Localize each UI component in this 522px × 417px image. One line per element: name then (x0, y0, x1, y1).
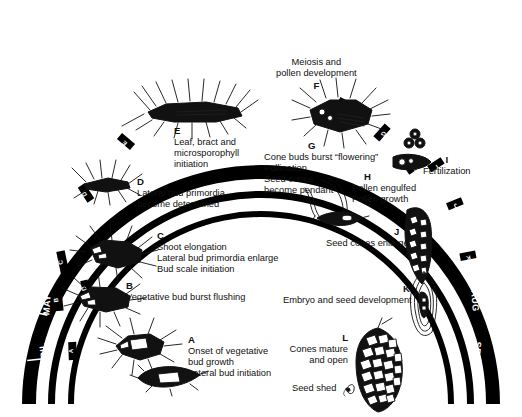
month-label-april-left: APRIL (37, 342, 50, 372)
stage-letter-K: K (403, 283, 412, 295)
annotation-seed-shed: Seed shed (292, 383, 336, 394)
stage-line-C-2: Bud scale initiation (157, 264, 278, 275)
stage-line-L-1: and open (266, 355, 348, 366)
stage-line-E-1: microsporophyll (174, 148, 239, 159)
month-label-may-left: MAY (41, 294, 52, 315)
stage-label-C: C Shoot elongation Lateral bud primordia… (157, 230, 278, 275)
stage-letter-I: I (423, 154, 471, 166)
month-label-nov-feb: NOV • FEB (236, 91, 286, 101)
stage-line-D-0: Lateral bud primordia (137, 188, 225, 199)
stage-line-E-0: Leaf, bract and (174, 137, 239, 148)
stage-label-D: D Lateral bud primordia become determine… (137, 176, 225, 210)
stage-line-G-0: Cone buds burst “flowering” (264, 152, 378, 163)
stage-line-I-0: Fertilization (423, 166, 471, 177)
month-label-aug-left: AUG (100, 153, 121, 176)
stage-letter-H: H (364, 171, 416, 183)
stage-letter-G: G (308, 140, 378, 152)
ring-tick-A: A (67, 348, 74, 353)
month-label-sept-left: SEPT (136, 120, 162, 144)
annotation-seed-shed-text: Seed shed (292, 383, 336, 394)
stage-label-A: A Onset of vegetative bud growth Lateral… (188, 334, 271, 379)
stage-line-C-1: Lateral bud primordia enlarge (157, 253, 278, 264)
stage-line-L-0: Cones mature (266, 344, 348, 355)
cycle-diagram: NOV • FEB OCT SEPT AUG JULY JUNE MAY APR… (0, 0, 522, 417)
stage-label-B: B Vegetative bud burst flushing (126, 280, 245, 303)
stage-line-F-1: pollen development (276, 68, 357, 79)
stage-label-F: Meiosis and pollen development F (276, 57, 357, 91)
stage-label-K: K Embryo and seed development (283, 283, 412, 306)
month-label-aug-right: AUG (469, 290, 480, 312)
stage-letter-D: D (137, 176, 225, 188)
stage-line-B-0: Vegetative bud burst flushing (126, 292, 245, 303)
stage-letter-F: F (276, 80, 357, 92)
stage-line-D-1: become determined (137, 199, 225, 210)
stage-letter-B: B (126, 280, 245, 292)
stage-letter-J: J (394, 226, 409, 238)
illustration-L-mature-open-cone (356, 318, 402, 412)
stage-label-I: I Fertilization (423, 154, 471, 177)
stage-line-H-0: Pollen engulfed (352, 183, 416, 194)
stage-letter-A: A (188, 334, 271, 346)
stage-line-E-2: initiation (174, 159, 239, 170)
stage-label-H: H Pollen engulfed Pollen growth (352, 171, 416, 205)
stage-letter-L: L (266, 332, 348, 344)
stage-line-A-0: Onset of vegetative (188, 346, 271, 357)
month-label-sept-right: SEPT (471, 341, 483, 367)
stage-line-A-2: Lateral bud initiation (188, 368, 271, 379)
illustration-J-young-seed-cone (405, 208, 432, 284)
stage-label-J: J Seed cones enlarge (326, 226, 409, 249)
stage-line-K-0: Embryo and seed development (283, 295, 412, 306)
illustration-seed-shed-winged-seed (344, 385, 355, 396)
stage-letter-C: C (157, 230, 278, 242)
stage-line-C-0: Shoot elongation (157, 242, 278, 253)
stage-label-L: L Cones mature and open (266, 332, 348, 366)
stage-line-J-0: Seed cones enlarge (326, 238, 409, 249)
stage-label-E: E Leaf, bract and microsporophyll initia… (174, 125, 239, 170)
stage-line-A-1: bud growth (188, 357, 271, 368)
stage-letter-E: E (174, 125, 239, 137)
stage-line-F-0: Meiosis and (276, 57, 357, 68)
stage-line-H-1: Pollen growth (352, 194, 416, 205)
